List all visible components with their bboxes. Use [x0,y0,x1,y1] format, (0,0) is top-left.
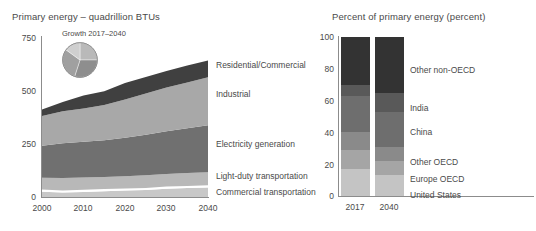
area-x-tick-2040: 2040 [191,204,225,213]
bar-segment-2017-europe-oecd[interactable] [341,150,370,169]
bar-segment-2017-other-non-oecd[interactable] [341,37,370,85]
area-x-tick-2000: 2000 [25,204,59,213]
bar-segment-2040-other-oecd[interactable] [375,147,404,161]
bar-y-tick-40: 40 [312,129,334,138]
area-x-tick-2030: 2030 [149,204,183,213]
area-y-tick-500: 500 [6,87,36,96]
stacked-bar-2017[interactable] [341,37,370,196]
bar-segment-2017-other-oecd[interactable] [341,132,370,149]
bar-legend-other-non-oecd: Other non-OECD [410,66,475,75]
bar-y-tick-100: 100 [312,33,334,42]
area-chart-x-axis [41,197,209,198]
bar-segment-2017-india[interactable] [341,85,370,96]
bar-segment-2040-united-states[interactable] [375,175,404,196]
area-legend-light-duty-transportation: Light-duty transportation [216,172,308,181]
bar-segment-2017-china[interactable] [341,96,370,133]
bar-y-tick-60: 60 [312,97,334,106]
area-x-tick-2010: 2010 [66,204,100,213]
area-x-tick-2020: 2020 [108,204,142,213]
area-legend-residential-commercial: Residential/Commercial [216,61,306,70]
bar-y-tick-20: 20 [312,161,334,170]
bar-y-tick-0: 0 [312,192,334,201]
percent-primary-energy-bar-chart-panel: Percent of primary energy (percent) 100 … [310,0,536,231]
bar-legend-other-oecd: Other OECD [410,158,458,167]
area-legend-industrial: Industrial [216,90,251,99]
bar-segment-2040-india[interactable] [375,93,404,112]
left-chart-title: Primary energy – quadrillion BTUs [12,11,160,22]
bar-segment-2017-united-states[interactable] [341,169,370,196]
bar-legend-united-states: United States [410,191,461,200]
bar-y-tick-80: 80 [312,65,334,74]
stacked-bar-2040[interactable] [375,37,404,196]
right-chart-title: Percent of primary energy (percent) [332,11,485,22]
bar-legend-europe-oecd: Europe OECD [410,175,464,184]
primary-energy-area-chart-panel: Primary energy – quadrillion BTUs 750 50… [0,0,320,231]
growth-pie-svg [62,42,98,78]
bar-chart-y-axis [338,36,339,197]
area-y-tick-750: 750 [6,34,36,43]
bar-legend-india: India [410,104,428,113]
bar-x-tick-2017: 2017 [338,203,372,212]
area-legend-electricity-generation: Electricity generation [216,140,295,149]
area-y-tick-250: 250 [6,140,36,149]
area-legend-commercial-transportation: Commercial transportation [216,188,316,197]
pie-chart-caption: Growth 2017–2040 [62,30,126,38]
bar-legend-china: China [410,128,432,137]
growth-pie-chart [62,42,98,78]
bar-segment-2040-other-non-oecd[interactable] [375,37,404,93]
bar-segment-2040-china[interactable] [375,112,404,147]
bar-segment-2040-europe-oecd[interactable] [375,161,404,175]
bar-x-tick-2040: 2040 [372,203,406,212]
area-y-tick-0: 0 [6,193,36,202]
